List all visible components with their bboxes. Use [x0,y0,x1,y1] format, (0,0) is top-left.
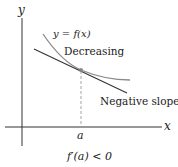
caption: f′(a) < 0 [67,151,112,162]
tangent-point [79,68,83,72]
tangent-annotation: Negative slope [100,96,178,107]
point-label: a [77,130,84,141]
function-curve [43,34,130,80]
derivative-diagram: y x y = f(x) Decreasing Negative slope a… [0,0,178,167]
y-axis-label: y [18,4,25,16]
x-axis-label: x [164,120,171,132]
curve-annotation: Decreasing [64,46,124,57]
diagram-canvas [0,0,178,167]
curve-label: y = f(x) [53,29,91,39]
